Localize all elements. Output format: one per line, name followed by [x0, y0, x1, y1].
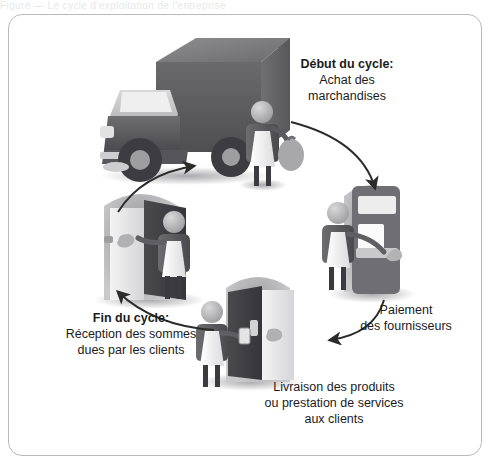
livraison-line2: ou prestation de services [236, 395, 432, 411]
fin-du-cycle-line2: Réception des sommes [36, 326, 226, 342]
paiement-line1: Paiement [344, 302, 468, 318]
debut-du-cycle-heading: Début du cycle: [286, 56, 408, 72]
fin-du-cycle-label: Fin du cycle: Réception des sommes dues … [36, 310, 226, 358]
debut-du-cycle-label: Début du cycle: Achat des marchandises [286, 56, 408, 104]
diagram-page: Figure — Le cycle d'exploitation de l'en… [0, 0, 494, 476]
livraison-des-produits-label: Livraison des produits ou prestation de … [236, 379, 432, 427]
debut-du-cycle-line2: Achat des [286, 72, 408, 88]
paiement-des-fournisseurs-label: Paiement des fournisseurs [344, 302, 468, 334]
paiement-line2: des fournisseurs [344, 318, 468, 334]
livraison-line1: Livraison des produits [236, 379, 432, 395]
fin-du-cycle-heading: Fin du cycle: [36, 310, 226, 326]
fin-du-cycle-line3: dues par les clients [36, 342, 226, 358]
livraison-line3: aux clients [236, 411, 432, 427]
debut-du-cycle-line3: marchandises [286, 88, 408, 104]
